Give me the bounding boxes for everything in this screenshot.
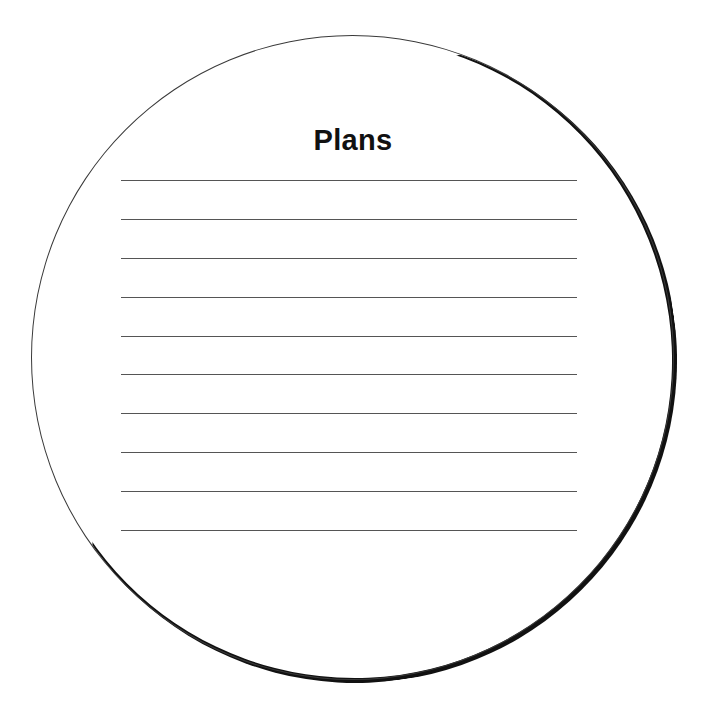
writing-line-5[interactable] <box>121 336 577 337</box>
writing-line-2[interactable] <box>121 219 577 220</box>
writing-line-7[interactable] <box>121 413 577 414</box>
writing-line-1[interactable] <box>121 180 577 181</box>
writing-line-9[interactable] <box>121 491 577 492</box>
writing-line-3[interactable] <box>121 258 577 259</box>
writing-line-10[interactable] <box>121 530 577 531</box>
page-title: Plans <box>0 122 706 158</box>
writing-line-6[interactable] <box>121 374 577 375</box>
writing-line-4[interactable] <box>121 297 577 298</box>
worksheet-page: Plans <box>0 0 708 719</box>
writing-line-8[interactable] <box>121 452 577 453</box>
